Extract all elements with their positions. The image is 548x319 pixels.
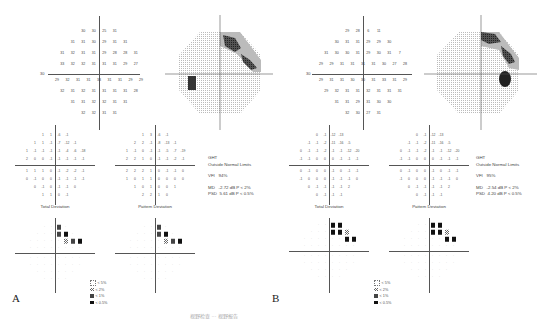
normal-point-icon: · <box>165 225 166 229</box>
grid-value: -1 <box>339 185 342 189</box>
grid-value: 0 <box>300 149 302 153</box>
normal-point-icon: · <box>439 237 440 241</box>
normal-point-icon: · <box>339 237 340 241</box>
normal-point-icon: · <box>137 270 138 274</box>
grid-value: -1 <box>165 169 168 173</box>
grid-value: 31 <box>92 89 96 93</box>
total-deviation-plot-a: 11-6-111-1-7-12-11-1-1-1-1-4-6-18200-1-1… <box>10 125 100 205</box>
normal-point-icon: · <box>446 254 447 258</box>
grid-value: 0 <box>158 177 160 181</box>
normal-point-icon: · <box>332 268 333 272</box>
grid-value: 31 <box>372 78 376 82</box>
normal-point-icon: · <box>325 237 326 241</box>
grid-value: 33 <box>382 78 386 82</box>
grid-value: -1 <box>331 193 334 197</box>
grid-value: 0 <box>150 157 152 161</box>
grid-value: -1 <box>165 133 168 137</box>
normal-point-icon: · <box>72 246 73 250</box>
normal-point-icon: · <box>172 270 173 274</box>
hatched-square-icon <box>445 230 449 235</box>
md-label: MD <box>208 185 215 190</box>
solid-square-icon <box>178 239 182 244</box>
normal-point-icon: · <box>51 277 52 281</box>
grid-value: -1 <box>447 177 450 181</box>
grid-value: -1 <box>347 169 350 173</box>
normal-point-icon: · <box>72 270 73 274</box>
normal-point-icon: · <box>165 246 166 250</box>
grid-value: 31 <box>340 62 344 66</box>
normal-point-icon: · <box>418 268 419 272</box>
grid-value: 31 <box>387 89 391 93</box>
grid-value: -18 <box>81 149 86 153</box>
grid-value: 31 <box>345 100 349 104</box>
grid-value: 1 <box>42 133 44 137</box>
grid-value: -1 <box>431 169 434 173</box>
grid-value: -1 <box>33 149 36 153</box>
normal-point-icon: · <box>318 268 319 272</box>
normal-point-icon: · <box>411 261 412 265</box>
dot-square-icon <box>90 280 96 286</box>
grid-value: -1 <box>347 177 350 181</box>
grid-value: 31 <box>108 78 112 82</box>
grid-value: -1 <box>455 157 458 161</box>
normal-point-icon: · <box>304 237 305 241</box>
normal-point-icon: · <box>318 275 319 279</box>
grid-value: -1 <box>407 169 410 173</box>
legend-label: < 5% <box>98 281 107 285</box>
normal-point-icon: · <box>51 270 52 274</box>
grid-value: 29 <box>319 78 323 82</box>
grid-value: 32 <box>71 62 75 66</box>
grid-value: 27 <box>393 62 397 66</box>
grid-value: 1 <box>142 133 144 137</box>
grid-value: 31 <box>335 100 339 104</box>
grid-value: -2 <box>65 169 68 173</box>
grid-value: 31 <box>393 78 397 82</box>
ght-value: Outside Normal Limits <box>476 162 519 167</box>
grid-value: 0 <box>416 193 418 197</box>
md-value: -2.54 dB <box>487 185 504 190</box>
vfi-value: 95% <box>487 173 496 178</box>
grid-value: -1 <box>447 157 450 161</box>
solid-square-icon <box>352 237 356 242</box>
normal-point-icon: · <box>65 246 66 250</box>
axis-label-left: 30 <box>306 71 310 76</box>
grid-value: -1 <box>355 169 358 173</box>
normal-point-icon: · <box>439 254 440 258</box>
grid-value: 0 <box>316 169 318 173</box>
grid-value: 31 <box>113 40 117 44</box>
grid-value: 0 <box>324 157 326 161</box>
grid-value: 2 <box>142 193 144 197</box>
vertical-axis <box>99 16 100 130</box>
grid-value: -8 <box>157 141 160 145</box>
grid-value: 31 <box>71 89 75 93</box>
normal-point-icon: · <box>44 263 45 267</box>
normal-point-icon: · <box>65 270 66 274</box>
normal-point-icon: · <box>44 246 45 250</box>
normal-point-icon: · <box>137 256 138 260</box>
normal-point-icon: · <box>432 268 433 272</box>
grid-value: 29 <box>129 78 133 82</box>
normal-point-icon: · <box>318 244 319 248</box>
normal-point-icon: · <box>325 254 326 258</box>
normal-point-icon: · <box>325 268 326 272</box>
normal-point-icon: · <box>325 261 326 265</box>
psd-p: P < 0.5% <box>504 191 522 196</box>
normal-point-icon: · <box>411 237 412 241</box>
normal-point-icon: · <box>439 268 440 272</box>
grid-value: 31 <box>76 78 80 82</box>
grid-value: -1 <box>81 169 84 173</box>
grid-value: 0 <box>134 177 136 181</box>
solid-square-icon <box>374 301 378 305</box>
grid-value: 33 <box>97 78 101 82</box>
grid-value: -1 <box>339 149 342 153</box>
total-deviation-title: Total Deviation <box>315 204 344 209</box>
normal-point-icon: · <box>332 237 333 241</box>
normal-point-icon: · <box>151 225 152 229</box>
grid-value: 28 <box>113 51 117 55</box>
legend-label: < 0.5% <box>96 301 108 305</box>
grid-value: -11 <box>431 141 436 145</box>
vertical-axis <box>363 16 364 130</box>
grid-value: -13 <box>439 133 444 137</box>
grid-value: 31 <box>361 62 365 66</box>
grid-value: -16 <box>339 141 344 145</box>
